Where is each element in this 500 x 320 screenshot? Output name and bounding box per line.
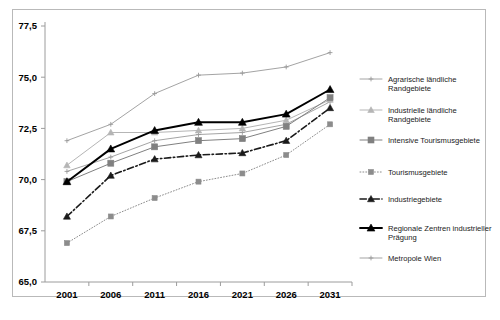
legend-label: Industrielle ländliche — [388, 106, 457, 115]
x-tick-label: 2031 — [320, 289, 342, 300]
legend-label: Agrarische ländliche — [388, 75, 456, 84]
legend-label: Regionale Zentren industrieller — [388, 224, 492, 233]
legend-entry-3[interactable]: Tourismusgebiete — [360, 168, 448, 177]
chart-legend: Agrarische ländlicheRandgebieteIndustrie… — [360, 75, 492, 263]
legend-entry-0[interactable]: Agrarische ländlicheRandgebiete — [360, 75, 456, 94]
legend-label: Randgebiete — [388, 115, 431, 124]
legend-marker-square-icon — [368, 137, 374, 143]
x-tick-label: 2016 — [188, 289, 209, 300]
legend-entry-6[interactable]: Metropole Wien — [360, 254, 441, 263]
data-point-marker — [328, 122, 333, 127]
legend-label: Industriegebiete — [388, 195, 442, 204]
y-tick-label: 65,0 — [19, 276, 38, 287]
data-point-marker — [240, 171, 245, 176]
x-tick-label: 2021 — [232, 289, 254, 300]
y-tick-label: 77,5 — [19, 20, 38, 31]
chart-figure: 65,067,570,072,575,077,52001200620112016… — [0, 0, 500, 320]
data-point-marker — [284, 153, 289, 158]
data-point-marker — [152, 144, 158, 150]
x-tick-label: 2011 — [144, 289, 165, 300]
data-point-marker — [327, 104, 334, 110]
data-point-marker — [239, 136, 245, 142]
x-axis-ticks: 2001200620112016202120262031 — [56, 282, 352, 300]
data-point-marker — [326, 86, 334, 93]
legend-label: Prägung — [388, 233, 417, 242]
x-tick-label: 2006 — [100, 289, 121, 300]
x-tick-label: 2026 — [276, 289, 297, 300]
y-tick-label: 67,5 — [19, 225, 38, 236]
data-point-marker — [196, 179, 201, 184]
legend-entry-1[interactable]: Industrielle ländlicheRandgebiete — [360, 106, 457, 125]
data-point-marker — [283, 117, 289, 123]
data-point-marker — [108, 214, 113, 219]
legend-label: Intensive Tourismusgebiete — [388, 136, 480, 145]
legend-label: Tourismusgebiete — [388, 168, 448, 177]
line-chart: 65,067,570,072,575,077,52001200620112016… — [0, 0, 500, 320]
legend-label: Metropole Wien — [388, 254, 441, 263]
x-tick-label: 2001 — [56, 289, 78, 300]
data-point-marker — [283, 123, 289, 129]
data-point-marker — [64, 241, 69, 246]
y-tick-label: 70,0 — [19, 174, 38, 185]
data-point-marker — [196, 138, 202, 144]
data-point-marker — [152, 196, 157, 201]
data-point-marker — [64, 162, 70, 168]
y-tick-label: 75,0 — [19, 72, 38, 83]
data-point-marker — [327, 95, 333, 101]
legend-entry-2[interactable]: Intensive Tourismusgebiete — [360, 136, 480, 145]
y-tick-label: 72,5 — [19, 123, 38, 134]
y-axis-ticks: 65,067,570,072,575,077,5 — [19, 20, 46, 287]
data-point-marker — [108, 160, 114, 166]
series-2 — [64, 95, 333, 185]
legend-entry-5[interactable]: Regionale Zentren industriellerPrägung — [360, 224, 492, 243]
legend-entry-4[interactable]: Industriegebiete — [360, 195, 442, 204]
legend-label: Randgebiete — [388, 84, 431, 93]
legend-marker-square-icon — [369, 170, 374, 175]
